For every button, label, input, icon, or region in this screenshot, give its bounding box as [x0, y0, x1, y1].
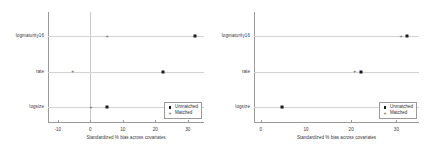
square-marker-icon: [382, 106, 387, 109]
right-matched-marker-row-2: [353, 70, 357, 74]
left-y-axis: [48, 12, 49, 123]
left-xtick-3: [123, 120, 124, 123]
right-y-axis: [254, 12, 255, 123]
left-gridline-row-1: [48, 36, 204, 37]
left-matched-marker-row-2: [71, 70, 75, 74]
left-xtick-label-2: 0: [89, 128, 92, 133]
right-xtick-4: [396, 120, 397, 123]
plus-marker-icon: +: [382, 111, 387, 116]
left-xtick-4: [155, 120, 156, 123]
left-unmatched-marker-row-3: [105, 106, 108, 109]
left-legend: Unmatched + Matched: [164, 102, 202, 119]
right-legend-item-unmatched: Unmatched: [382, 105, 413, 110]
right-xtick-label-1: 0: [259, 128, 262, 133]
left-xtick-label-1: -10: [54, 128, 61, 133]
right-unmatched-marker-row-2: [359, 70, 362, 73]
left-matched-marker-row-1: [105, 34, 109, 38]
right-xtick-1: [261, 120, 262, 123]
left-xtick-label-3: 10: [120, 128, 125, 133]
left-ytick-label-2: rate: [36, 70, 44, 75]
left-legend-label-matched: Matched: [175, 111, 192, 116]
left-legend-item-unmatched: Unmatched: [167, 105, 198, 110]
left-unmatched-marker-row-1: [193, 35, 196, 38]
right-xaxis-title: Standardized % bias across covariates: [254, 136, 419, 141]
left-matched-marker-row-3: [89, 105, 93, 109]
right-gridline-row-2: [254, 72, 419, 73]
right-xtick-3: [351, 120, 352, 123]
left-legend-item-matched: + Matched: [167, 111, 198, 116]
plus-marker-icon: +: [167, 111, 172, 116]
right-legend-label-matched: Matched: [390, 111, 407, 116]
right-unmatched-marker-row-1: [406, 35, 409, 38]
left-unmatched-marker-row-2: [161, 70, 164, 73]
right-xtick-label-4: 30: [394, 128, 399, 133]
right-legend-label-unmatched: Unmatched: [390, 105, 413, 110]
square-marker-icon: [167, 106, 172, 109]
right-panel: logmaturity16 rate logsize 0 10 20 30 St…: [212, 0, 425, 151]
right-gridline-row-1: [254, 36, 419, 37]
left-xtick-label-4: 20: [153, 128, 158, 133]
left-ytick-label-3: logsize: [29, 105, 44, 110]
right-legend-item-matched: + Matched: [382, 111, 413, 116]
left-x-axis: [48, 122, 204, 123]
left-xtick-5: [188, 120, 189, 123]
right-unmatched-marker-row-3: [281, 106, 284, 109]
right-xtick-label-3: 20: [349, 128, 354, 133]
bias-comparison-figure: logmaturity16 rate logsize -10 0 10 20: [0, 0, 425, 151]
right-plot-area: logmaturity16 rate logsize 0 10 20 30 St…: [254, 12, 419, 123]
left-legend-label-unmatched: Unmatched: [175, 105, 198, 110]
left-xaxis-title: Standardized % bias across covariates: [48, 136, 204, 141]
left-xtick-label-5: 30: [185, 128, 190, 133]
left-ytick-label-1: logmaturity16: [16, 34, 44, 39]
left-xtick-2: [90, 120, 91, 123]
right-ytick-label-3: logsize: [235, 105, 250, 110]
left-panel: logmaturity16 rate logsize -10 0 10 20: [0, 0, 212, 151]
left-xtick-1: [58, 120, 59, 123]
right-ytick-label-2: rate: [242, 70, 250, 75]
left-plot-area: logmaturity16 rate logsize -10 0 10 20: [48, 12, 204, 123]
right-ytick-label-1: logmaturity16: [222, 34, 250, 39]
right-xtick-label-2: 10: [303, 128, 308, 133]
right-xtick-2: [254, 120, 255, 123]
right-x-axis: [254, 122, 419, 123]
right-legend: Unmatched + Matched: [379, 102, 417, 119]
right-matched-marker-row-1: [399, 34, 403, 38]
